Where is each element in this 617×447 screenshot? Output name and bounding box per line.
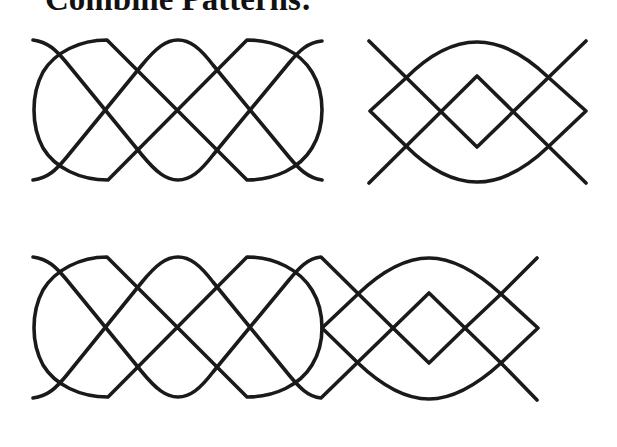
diagonal-strand-v <box>369 41 586 147</box>
patterns-canvas <box>0 0 617 447</box>
pattern-combined <box>33 257 538 400</box>
diagonal-strand-caret <box>369 76 586 183</box>
lens-outline <box>322 258 538 399</box>
chain-loop <box>34 40 322 180</box>
chain-loop <box>34 257 322 397</box>
pattern-b <box>369 41 586 183</box>
pattern-a <box>33 40 322 180</box>
lens-outline <box>370 42 586 182</box>
